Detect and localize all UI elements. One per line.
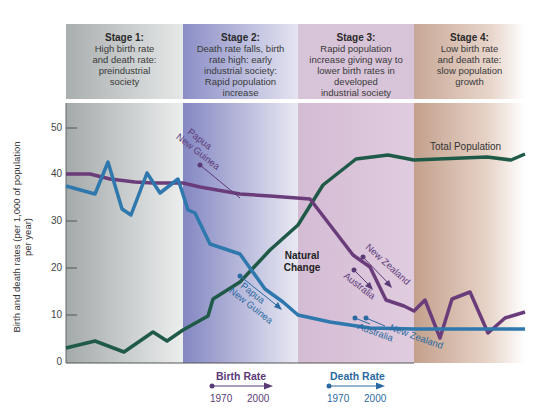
legend-death-rate: Death Rate [330, 370, 385, 382]
legend-birth-start: 1970 [210, 393, 232, 404]
legend-death-years: 1970 2000 [327, 393, 397, 404]
y-tick: 20 [48, 262, 62, 273]
y-tick: 50 [48, 122, 62, 133]
legend-death-title: Death Rate [330, 370, 385, 382]
legend-birth-end: 2000 [247, 393, 269, 404]
legend-death-start: 1970 [327, 393, 349, 404]
y-tick: 40 [48, 168, 62, 179]
legend-birth-years: 1970 2000 [210, 393, 280, 404]
y-axis-label: Birth and death rates (per 1,000 of popu… [11, 137, 33, 337]
natural-change-label: Natural [285, 250, 320, 261]
natural-change-label: Change [284, 262, 321, 273]
y-tick: 30 [48, 215, 62, 226]
legend-birth-rate: Birth Rate [216, 370, 266, 382]
legend-death-end: 2000 [364, 393, 386, 404]
demographic-chart: Total Population Natural Change Papua Ne… [0, 0, 546, 420]
legend-birth-title: Birth Rate [216, 370, 266, 382]
y-tick: 0 [48, 356, 62, 367]
y-tick: 10 [48, 309, 62, 320]
total-population-label: Total Population [430, 141, 501, 152]
